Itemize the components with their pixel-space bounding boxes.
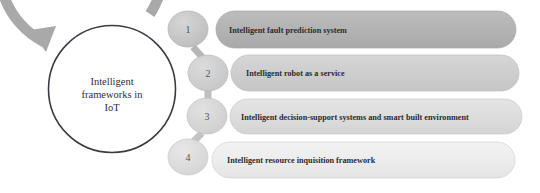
step-2-number: 2 <box>206 68 211 79</box>
step-3-label: Intelligent decision-support systems and… <box>241 113 469 122</box>
center-label-line-1: Intelligent <box>90 76 133 87</box>
step-4-label: Intelligent resource inquisition framewo… <box>227 156 376 165</box>
step-4-number: 4 <box>186 152 191 163</box>
step-4[interactable]: Intelligent resource inquisition framewo… <box>168 139 515 178</box>
step-2-label: Intelligent robot as a service <box>246 69 345 78</box>
center-label-line-2: frameworks in <box>82 89 144 100</box>
step-1-label: Intelligent fault prediction system <box>229 26 347 35</box>
diagram-svg: Intelligent frameworks in IoT Intelligen… <box>0 0 540 193</box>
step-1-number: 1 <box>186 24 191 35</box>
step-2[interactable]: Intelligent robot as a service 2 <box>188 55 519 91</box>
diagram-canvas: Intelligent frameworks in IoT Intelligen… <box>0 0 540 193</box>
step-1[interactable]: Intelligent fault prediction system 1 <box>168 11 516 48</box>
step-3[interactable]: Intelligent decision-support systems and… <box>187 98 522 134</box>
center-label-line-3: IoT <box>104 102 120 113</box>
step-3-number: 3 <box>205 111 210 122</box>
